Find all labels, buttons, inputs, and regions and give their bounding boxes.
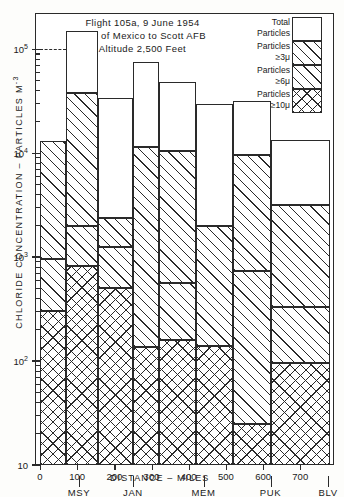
x-axis-tick [114,465,115,470]
bar-segment-ge6 [40,259,66,311]
y-axis-tick [32,360,40,361]
y-axis-label-text: CHLORIDE CONCENTRATION – PARTICLES M [14,84,24,329]
bar-segment-ge10 [133,347,159,465]
bar-segment-ge10 [98,288,133,465]
y-axis-label-exponent: -3 [12,75,19,84]
bar-segment-total [233,101,270,156]
city-label-puk: PUK [260,487,281,497]
bar-segment-ge3 [40,141,66,259]
bar-segment-ge3 [66,93,98,226]
x-axis-tick [300,465,301,470]
x-axis-tick-label: 600 [255,471,271,482]
bar-segment-ge6 [196,226,233,346]
city-label-blv: BLV [319,487,338,497]
x-axis-tick-label: 200 [106,471,122,482]
y-axis-tick-label: 10 [17,460,28,471]
x-axis-tick-label: 400 [181,471,197,482]
y-axis-minor-tick [35,80,40,81]
y-axis-minor-tick [35,72,40,73]
x-axis-tick [40,465,41,470]
chart-root: Flight 105a, 9 June 1954 Gulf of Mexico … [0,0,344,497]
bar-segment-ge6 [159,283,196,340]
y-axis-label: CHLORIDE CONCENTRATION – PARTICLES M-3 [12,52,24,352]
x-axis-tick-label: 0 [37,471,42,482]
bar-segment-ge10 [196,346,233,465]
bar-segment-ge10 [271,363,330,465]
city-marker-line [271,476,272,487]
x-axis-tick [77,465,78,470]
x-axis-tick-label: 500 [218,471,234,482]
city-marker-line [204,476,205,487]
x-axis-tick [152,465,153,470]
bar-segment-total [196,104,233,226]
bar-segment-total [133,62,159,147]
y-axis-tick-label: 104 [14,147,28,159]
city-marker-line [328,476,329,487]
y-axis-tick-label: 102 [14,355,28,367]
x-axis-tick [189,465,190,470]
bar-segment-ge10 [159,340,196,465]
x-axis-tick [263,465,264,470]
bar-segment-total [66,31,98,93]
bar-segment-ge6 [233,271,270,424]
y-axis-tick [32,256,40,257]
bar-segment-total [271,140,330,205]
x-axis-tick-label: 700 [292,471,308,482]
bar-segment-ge6 [66,226,98,266]
bar-segment-ge3 [233,155,270,270]
bar-segment-ge10 [40,311,66,465]
bar-segment-ge3 [271,205,330,308]
y-axis-minor-tick [35,65,40,66]
city-marker-line [79,476,80,487]
bar-segment-total [159,82,196,151]
x-axis-tick-label: 100 [69,471,85,482]
y-axis-tick-label: 103 [14,251,28,263]
bar-segment-ge6 [271,307,330,363]
reference-dashed-line [40,49,66,50]
bar-segment-ge6 [133,147,159,348]
bar-segment-ge6 [98,247,133,288]
bar-segment-ge3 [159,151,196,283]
city-label-mem: MEM [192,487,216,497]
y-axis-tick [32,49,40,50]
x-axis-tick [226,465,227,470]
y-axis-tick-label: 105 [14,43,28,55]
y-axis-minor-tick [35,53,40,54]
city-marker-line [133,476,134,487]
y-axis-minor-tick [35,121,40,122]
y-axis-minor-tick [35,103,40,104]
plot-area: 105104103102100100200300400500600700MSYJ… [40,18,330,465]
city-label-jan: JAN [123,487,143,497]
bar-segment-ge3 [98,218,133,247]
bar-segment-ge10 [233,424,270,465]
x-axis-tick-label: 300 [144,471,160,482]
y-axis-tick [32,153,40,154]
bar-segment-total [98,98,133,218]
bar-segment-ge10 [66,266,98,465]
y-axis-tick [32,464,40,465]
y-axis-minor-tick [35,90,40,91]
city-label-msy: MSY [68,487,90,497]
y-axis-minor-tick [35,59,40,60]
